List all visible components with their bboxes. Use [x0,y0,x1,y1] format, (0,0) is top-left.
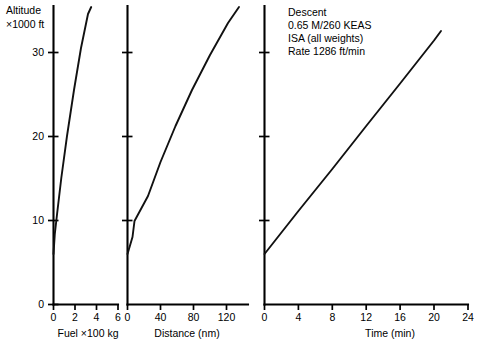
y-axis-title-line1: Altitude [6,4,41,16]
descent-performance-chart: 30 20 10 0 0 2 4 6 Fuel ×100 kg [0,0,486,351]
annotation-line-descent: Descent [288,6,327,18]
time-x-tick-label-24: 24 [462,311,474,323]
y-axis-title-line2: ×1000 ft [6,18,44,30]
distance-x-tick-label-80: 80 [188,311,200,323]
figure-caption-partial [8,341,238,351]
y-tick-label-0: 0 [38,298,44,310]
distance-axis-title: Distance (nm) [154,327,219,339]
panel-fuel: 30 20 10 0 0 2 4 6 Fuel ×100 kg [32,6,121,339]
distance-x-tick-label-40: 40 [155,311,167,323]
time-x-tick-label-16: 16 [394,311,406,323]
descent-conditions-annotation: Descent 0.65 M/260 KEAS ISA (all weights… [288,6,371,57]
time-x-tick-label-12: 12 [360,311,372,323]
time-x-tick-label-8: 8 [329,311,335,323]
fuel-axis-title: Fuel ×100 kg [57,327,118,339]
figure-canvas: 30 20 10 0 0 2 4 6 Fuel ×100 kg [0,0,486,351]
time-x-tick-label-20: 20 [428,311,440,323]
annotation-line-speed: 0.65 M/260 KEAS [288,19,371,31]
fuel-x-tick-label-0: 0 [51,311,57,323]
time-x-tick-label-4: 4 [295,311,301,323]
annotation-line-isa: ISA (all weights) [288,32,363,44]
fuel-curve [54,7,92,254]
fuel-x-tick-label-2: 2 [72,311,78,323]
distance-x-tick-label-120: 120 [218,311,236,323]
y-axis-title: Altitude ×1000 ft [6,4,44,30]
fuel-x-tick-label-4: 4 [94,311,100,323]
y-tick-label-30: 30 [32,46,44,58]
time-curve [265,31,442,254]
time-x-tick-label-0: 0 [262,311,268,323]
annotation-line-rate: Rate 1286 ft/min [288,45,365,57]
y-tick-label-20: 20 [32,130,44,142]
panel-distance: 0 40 80 120 Distance (nm) [122,6,248,339]
time-axis-title: Time (min) [365,327,415,339]
y-tick-label-10: 10 [32,214,44,226]
distance-curve [128,7,240,254]
fuel-x-tick-label-6: 6 [115,311,121,323]
distance-x-tick-label-0: 0 [125,311,131,323]
